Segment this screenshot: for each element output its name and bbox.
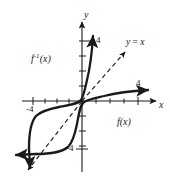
identity-label-x: x: [140, 37, 144, 47]
y-tick-label-neg4: -4: [66, 144, 74, 153]
x-tick-label-4: 4: [136, 79, 141, 88]
y-tick-label-4: 4: [96, 36, 101, 45]
curve-f-left-tail: [16, 154, 36, 155]
curve-f-inverse-bottom-tail: [29, 148, 30, 168]
f-inverse-argument: (x): [40, 53, 51, 64]
x-axis-label: x: [159, 100, 163, 110]
x-tick-label-neg4: -4: [26, 105, 34, 114]
curve-f-path: [36, 90, 148, 154]
inverse-function-graph-figure: y x f-1(x) f(x) y = x 4 -4 -4 4: [0, 0, 170, 184]
identity-line-label: y = x: [126, 38, 145, 48]
curve-label-f: f(x): [117, 117, 131, 127]
curve-label-f-inverse: f-1(x): [31, 53, 51, 64]
identity-label-equals: =: [130, 37, 140, 47]
graph-canvas: [0, 0, 170, 184]
y-axis-label: y: [84, 10, 88, 20]
